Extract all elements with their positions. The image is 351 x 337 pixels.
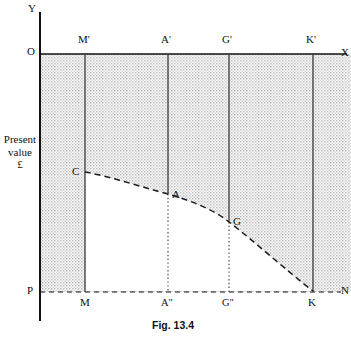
axis-label-x: X: [341, 47, 349, 58]
point-label-k-prime: K': [306, 34, 316, 45]
point-label-k: K: [308, 297, 316, 308]
point-label-a-prime: A': [161, 34, 171, 45]
point-label-a-double-prime: A": [161, 297, 173, 308]
present-value-caption: Present value £: [2, 133, 38, 171]
point-label-m: M: [80, 297, 90, 308]
figure-drawing: [0, 0, 351, 337]
present-value-line-2: value: [2, 146, 38, 159]
axis-label-origin: O: [27, 46, 35, 57]
present-value-line-3: £: [2, 158, 38, 171]
curve-point-label-a: A: [172, 189, 180, 200]
curve-point-label-c: C: [72, 166, 79, 177]
axis-label-p: P: [27, 285, 33, 296]
figure-13-4: Y X O P N Present value £ M' A' G' K' M …: [0, 0, 351, 337]
axis-label-n: N: [341, 285, 349, 296]
point-label-g-prime: G': [222, 34, 232, 45]
present-value-line-1: Present: [2, 133, 38, 146]
point-label-m-prime: M': [78, 34, 90, 45]
figure-caption: Fig. 13.4: [152, 319, 194, 331]
curve-point-label-g: G: [233, 216, 241, 227]
axis-label-y: Y: [28, 3, 36, 14]
point-label-g-double-prime: G": [222, 297, 234, 308]
